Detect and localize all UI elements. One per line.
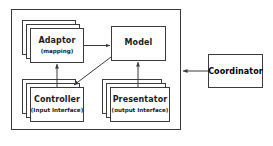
- connector-layer: [0, 0, 273, 146]
- connector-model-to-controller: [74, 57, 111, 85]
- architecture-diagram: Adaptor (mapping) Model Controller (Inpu…: [0, 0, 273, 146]
